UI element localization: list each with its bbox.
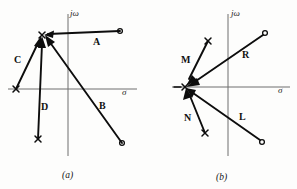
panel-a-vector-b [45,35,124,145]
panel-b-vector-l-line [193,93,260,140]
panel-a-vector-c-line [16,43,38,89]
panel-b-zero-marker-l [260,140,265,145]
panel-a-vector-d-line [38,44,42,139]
panel-b-caption: (b) [216,172,227,183]
panel-b-vector-n-label: N [184,112,192,123]
panel-b-vector-m-label: M [181,54,191,65]
panel-a-vector-c-label: C [14,54,21,65]
panel-b-vector-n-line [190,96,205,133]
panel-a-real-axis-label: σ [122,87,127,97]
panel-b-vector-l-label: L [239,111,246,122]
panel-b-zero-marker-r [263,31,268,36]
panel-a-vector-a-label: A [93,36,101,47]
panel-a-vector-a-line [48,31,120,34]
panel-b-vector-m-line [189,41,208,79]
panel-a-vector-a [44,29,122,38]
pole-zero-figure: jω σ A B [0,0,297,189]
panel-b-imaginary-axis-label: jω [230,8,240,18]
panel-a-caption: (a) [62,170,73,181]
panel-a-vector-b-line [49,41,122,143]
panel-a-vector-b-label: B [99,100,106,111]
panel-b-vector-r-label: R [242,49,250,60]
panel-a-imaginary-axis-label: jω [69,8,79,18]
panel-a-vector-d-label: D [41,101,48,112]
panel-b: jω σ M R [172,8,290,183]
figure-canvas: jω σ A B [0,0,297,189]
panel-a: jω σ A B [8,8,137,181]
panel-b-real-axis-label: σ [278,85,283,95]
